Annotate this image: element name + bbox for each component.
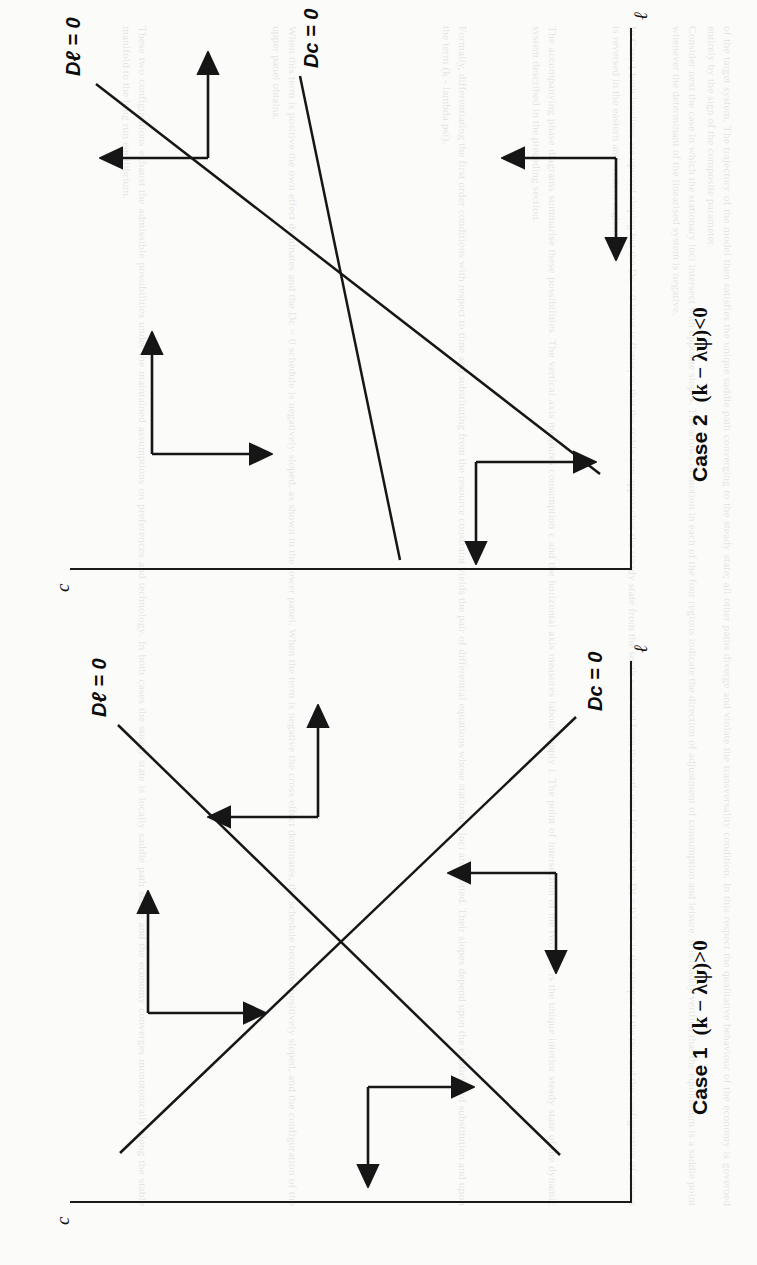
caption-case-1-prefix: Case 1 <box>688 1047 711 1115</box>
caption-case-2-prefix: Case 2 <box>688 414 711 482</box>
arrow-pair-west-case-2 <box>476 462 592 560</box>
caption-case-2-condition: (k − λψ)<0 <box>688 307 712 402</box>
arrow-pair-north-case-1 <box>148 895 262 1013</box>
isocline-dc-case-1 <box>120 717 576 1153</box>
isocline-label-dl-case-1: Dℓ = 0 <box>88 658 111 717</box>
isocline-label-dl-case-2: Dℓ = 0 <box>62 17 85 76</box>
arrow-pair-east-case-2 <box>104 56 208 158</box>
panel-case-1: c ℓ <box>0 633 757 1265</box>
phase-lines-case-1 <box>0 633 757 1265</box>
isocline-label-dc-case-1: Dc = 0 <box>584 652 607 711</box>
panel-case-2: c ℓ <box>0 0 757 632</box>
arrow-pair-south-case-2 <box>506 158 616 256</box>
caption-case-1: Case 1 (k − λψ)>0 <box>688 940 713 1115</box>
isocline-dc-case-2 <box>300 76 400 560</box>
arrow-pair-north-case-2 <box>152 336 268 454</box>
isocline-dl-case-2 <box>96 84 600 474</box>
arrow-pair-east-case-1 <box>212 709 318 817</box>
scanned-page: of the target system. The trajectory of … <box>0 0 757 1265</box>
arrow-pair-west-case-1 <box>368 1087 470 1183</box>
isocline-label-dc-case-2: Dc = 0 <box>300 9 323 68</box>
phase-lines-case-2 <box>0 0 757 632</box>
figure-stage: c ℓ <box>0 0 757 1265</box>
arrow-pair-south-case-1 <box>452 873 556 969</box>
caption-case-1-condition: (k − λψ)>0 <box>688 940 712 1035</box>
caption-case-2: Case 2 (k − λψ)<0 <box>688 307 713 482</box>
